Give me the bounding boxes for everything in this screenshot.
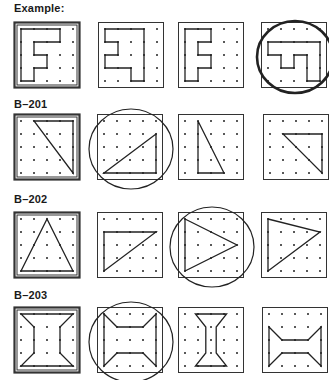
answer-choice[interactable]	[262, 307, 328, 373]
shape-outline	[269, 327, 321, 366]
target-figure	[14, 307, 80, 373]
section-label: Example:	[14, 2, 65, 14]
answer-choice[interactable]	[263, 114, 329, 180]
answer-choice[interactable]	[97, 114, 163, 180]
answer-choice[interactable]	[98, 22, 164, 88]
answer-choice[interactable]	[178, 307, 244, 373]
shape-outline	[21, 29, 60, 81]
section-label: B–201	[14, 98, 47, 110]
section-label: B–203	[14, 289, 47, 301]
section-label: B–202	[14, 193, 47, 205]
shape-outline	[185, 29, 211, 81]
shape-outline	[105, 29, 144, 81]
answer-choice[interactable]	[261, 212, 327, 278]
target-figure	[14, 22, 80, 88]
selection-circle	[257, 21, 329, 93]
target-figure	[14, 212, 80, 278]
answer-choice[interactable]	[261, 22, 327, 88]
answer-choice[interactable]	[97, 307, 163, 373]
answer-choice[interactable]	[178, 212, 244, 278]
target-figure	[14, 114, 80, 180]
shape-outline	[104, 232, 156, 271]
shape-outline	[104, 134, 156, 173]
shape-outline	[283, 134, 322, 173]
answer-choice[interactable]	[178, 22, 244, 88]
selection-circle	[89, 302, 173, 380]
shape-outline	[198, 121, 224, 173]
answer-choice[interactable]	[178, 114, 244, 180]
shape-outline	[34, 121, 73, 173]
answer-choice[interactable]	[97, 212, 163, 278]
shape-outline	[268, 42, 320, 81]
